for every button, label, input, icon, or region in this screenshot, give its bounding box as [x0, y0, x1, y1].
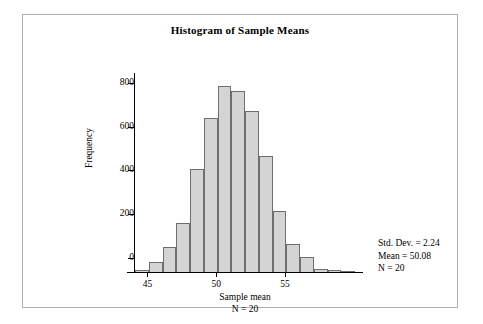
histogram-bar	[190, 169, 204, 272]
y-tick: 600	[23, 127, 134, 128]
histogram-bar	[245, 111, 259, 272]
y-tick-label: 400	[100, 164, 134, 174]
mean-text: Mean = 50.08	[378, 250, 440, 263]
x-tick-mark	[285, 272, 286, 277]
y-axis-title: Frequency	[84, 128, 94, 168]
histogram-bar	[231, 91, 245, 272]
y-tick-label: 200	[100, 208, 134, 218]
histogram-bars	[135, 75, 355, 272]
y-tick: 800	[23, 83, 134, 84]
y-tick-label: 600	[100, 121, 134, 131]
histogram-bar	[176, 223, 190, 272]
x-tick-mark	[147, 272, 148, 277]
histogram-bar	[163, 247, 177, 272]
histogram-bar	[328, 270, 342, 272]
histogram-bar	[286, 244, 300, 272]
y-tick-label: 0	[100, 252, 134, 262]
y-tick-label: 800	[100, 77, 134, 87]
n-text: N = 20	[378, 262, 440, 275]
x-axis-title: Sample mean	[135, 292, 355, 302]
histogram-bar	[149, 262, 163, 272]
histogram-bar	[135, 270, 149, 272]
histogram-bar	[300, 257, 314, 272]
histogram-bar	[273, 211, 287, 272]
x-tick-mark	[216, 272, 217, 277]
x-axis-line	[127, 272, 363, 273]
x-axis-subtitle: N = 20	[135, 304, 355, 314]
page-title: Histogram of Sample Means	[23, 24, 457, 36]
statistics-annotation: Std. Dev. = 2.24 Mean = 50.08 N = 20	[378, 237, 440, 275]
plot-area	[135, 75, 355, 272]
histogram-bar	[259, 156, 273, 272]
figure-frame: Histogram of Sample Means 0200400600800 …	[22, 14, 458, 308]
x-tick-label: 55	[270, 279, 300, 289]
histogram-bar	[341, 271, 355, 272]
histogram-bar	[218, 86, 232, 272]
y-tick: 400	[23, 170, 134, 171]
histogram-bar	[204, 118, 218, 272]
x-tick-label: 50	[201, 279, 231, 289]
histogram-bar	[314, 269, 328, 272]
std-dev-text: Std. Dev. = 2.24	[378, 237, 440, 250]
x-tick-label: 45	[132, 279, 162, 289]
y-tick: 200	[23, 214, 134, 215]
y-tick: 0	[23, 258, 134, 259]
